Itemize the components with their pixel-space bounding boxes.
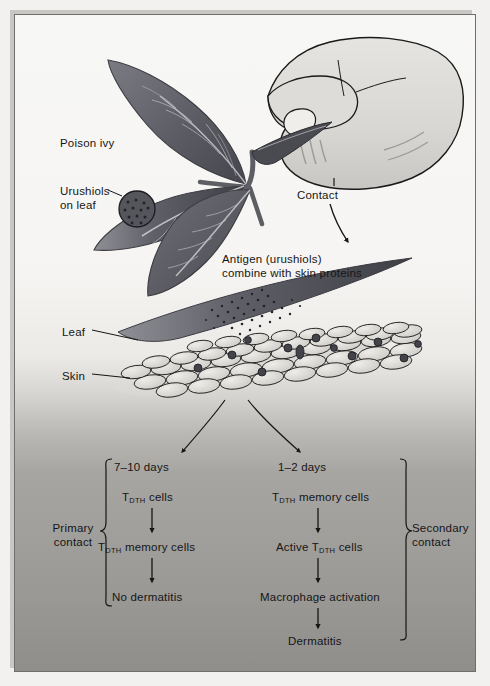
label-antigen-line2: combine with skin proteins	[222, 266, 362, 280]
label-antigen-line1: Antigen (urushiols)	[222, 252, 362, 266]
tdth-suffix: cells	[335, 541, 362, 553]
tdth-suffix: memory cells	[122, 541, 196, 553]
label-urushiols-line1: Urushiols	[60, 184, 110, 198]
label-secondary-contact-line1: Secondary	[412, 521, 472, 535]
label-primary-contact: Primary contact	[42, 521, 104, 549]
label-secondary-step-1: TDTH memory cells	[272, 490, 369, 506]
label-secondary-contact: Secondary contact	[412, 521, 472, 549]
branch-split-arrows	[182, 400, 300, 452]
label-antigen-combine: Antigen (urushiols) combine with skin pr…	[222, 252, 362, 280]
label-primary-step-2: TDTH memory cells	[98, 540, 195, 556]
label-contact: Contact	[297, 188, 338, 202]
diagram-artwork	[0, 0, 490, 686]
label-secondary-step-3: Macrophage activation	[260, 590, 380, 604]
label-secondary-timing: 1–2 days	[278, 460, 326, 474]
tdth-suffix: memory cells	[296, 491, 370, 503]
label-primary-outcome: No dermatitis	[112, 590, 182, 604]
tdth-suffix: cells	[146, 491, 173, 503]
label-primary-step-1: TDTH cells	[122, 490, 173, 506]
label-primary-contact-line2: contact	[42, 535, 104, 549]
figure-page: Poison ivy Urushiols on leaf Contact Ant…	[0, 0, 490, 686]
tdth-subscript: DTH	[129, 496, 145, 505]
label-secondary-outcome: Dermatitis	[288, 634, 342, 648]
label-secondary-step-2: Active TDTH cells	[276, 540, 363, 556]
label-primary-contact-line1: Primary	[42, 521, 104, 535]
label-leaf: Leaf	[62, 325, 85, 339]
label-skin: Skin	[62, 369, 85, 383]
label-secondary-contact-line2: contact	[412, 535, 472, 549]
leaf-upper-left	[108, 60, 246, 184]
label-urushiols-line2: on leaf	[60, 198, 110, 212]
urushiols-magnifier	[108, 190, 155, 227]
secondary-contact-bracket	[400, 459, 412, 640]
tdth-prefix: Active T	[276, 541, 319, 553]
tdth-subscript: DTH	[105, 546, 121, 555]
tdth-subscript: DTH	[279, 496, 295, 505]
label-poison-ivy: Poison ivy	[60, 136, 114, 150]
tdth-subscript: DTH	[319, 546, 335, 555]
hand-illustration	[252, 37, 463, 189]
label-urushiols-on-leaf: Urushiols on leaf	[60, 184, 110, 212]
label-primary-timing: 7–10 days	[114, 460, 169, 474]
